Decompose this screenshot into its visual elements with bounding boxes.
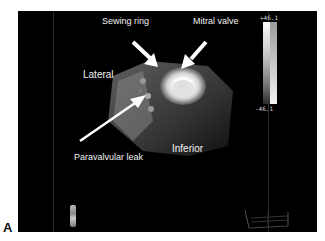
velocity-colorbar [263,22,277,104]
echo-3d-viewport: Sewing ring Mitral valve Lateral Inferio… [18,11,317,232]
annotation-mitral-valve: Mitral valve [193,16,239,26]
panel-letter: A [3,220,12,235]
annotation-lateral: Lateral [83,69,114,80]
annotation-inferior: Inferior [172,143,203,154]
annotation-paravalvular-leak: Paravalvular leak [74,152,143,162]
probe-orientation-icon [70,205,76,227]
colorbar-max-label: +46.1 [260,14,278,21]
annotation-sewing-ring: Sewing ring [102,16,149,26]
colorbar-min-label: -46.1 [255,105,273,112]
orientation-box-icon [243,208,293,230]
